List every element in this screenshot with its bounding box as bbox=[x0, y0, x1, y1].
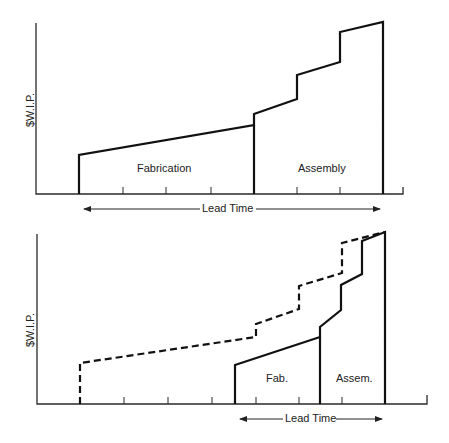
bottom-assem-label: Assem. bbox=[336, 372, 373, 384]
top-x-ticks bbox=[123, 187, 340, 194]
bottom-lead-time-label: Lead Time bbox=[285, 412, 336, 424]
top-axes bbox=[36, 23, 403, 194]
bottom-y-axis-label: $W.I.P. bbox=[24, 308, 36, 352]
top-fabrication-label: Fabrication bbox=[137, 162, 191, 174]
bottom-chart bbox=[37, 232, 427, 419]
top-assembly-label: Assembly bbox=[298, 162, 346, 174]
bottom-x-ticks bbox=[124, 397, 342, 404]
top-y-axis-label: $W.I.P. bbox=[24, 88, 36, 132]
top-chart bbox=[36, 22, 403, 209]
wip-diagram bbox=[0, 0, 449, 443]
top-lead-time-label: Lead Time bbox=[202, 202, 253, 214]
bottom-fab-label: Fab. bbox=[266, 372, 288, 384]
